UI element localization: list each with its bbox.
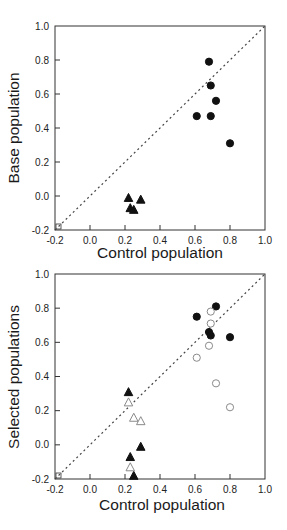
scatter-plot-bottom: -0.20.00.20.40.60.81.0 -0.20.00.20.40.60… [0,265,287,530]
open-triangle-marker [124,398,133,406]
y-tick-label: 0.8 [35,55,49,66]
open-triangle-marker [126,463,135,471]
open-circle-marker [207,320,214,327]
x-tick-label: 0.0 [83,484,97,495]
open-circle-marker [193,354,200,361]
x-axis-title: Control population [97,244,223,261]
corner-square-icon [56,473,61,478]
x-tick-label: 0.6 [188,484,202,495]
filled-circle-marker [207,82,214,89]
open-circle-marker [226,404,233,411]
x-tick-label: 0.8 [223,484,237,495]
open-circle-marker [205,342,212,349]
x-tick-label: -0.2 [46,484,64,495]
filled-circle-marker [207,113,214,120]
y-tick-label: 0.2 [35,157,49,168]
identity-reference-line [55,274,265,479]
scatter-plot-top: -0.20.00.20.40.60.81.0 -0.20.00.20.40.60… [0,0,287,265]
y-axis-title: Base population [5,72,22,183]
data-points [124,303,233,479]
corner-square-icon [56,224,61,229]
filled-circle-marker [193,313,200,320]
x-tick-label: 0.8 [223,235,237,246]
filled-circle-marker [205,58,212,65]
y-axis-title: Selected populations [5,305,22,449]
x-tick-label: 1.0 [258,235,272,246]
filled-triangle-marker [137,195,146,203]
x-axis-title: Control population [99,496,225,513]
y-tick-label: 0.2 [35,405,49,416]
y-tick-label: 1.0 [35,21,49,32]
y-tick-label: -0.2 [32,225,50,236]
filled-triangle-marker [126,453,135,461]
y-tick-label: 0.6 [35,89,49,100]
y-tick-label: 1.0 [35,269,49,280]
y-tick-label: 0.4 [35,123,49,134]
y-tick-label: 0.6 [35,337,49,348]
filled-triangle-marker [137,442,146,450]
x-tick-label: 0.4 [153,484,167,495]
chart-base-vs-control: -0.20.00.20.40.60.81.0 -0.20.00.20.40.60… [0,0,287,265]
filled-circle-marker [226,140,233,147]
x-tick-label: 1.0 [258,484,272,495]
y-ticks: -0.20.00.20.40.60.81.0 [32,21,60,236]
y-tick-label: 0.4 [35,371,49,382]
y-tick-label: 0.0 [35,191,49,202]
x-ticks: -0.20.00.20.40.60.81.0 [46,474,272,495]
identity-reference-line [55,26,265,230]
open-triangle-marker [130,413,139,421]
open-circle-marker [207,308,214,315]
filled-triangle-marker [124,193,133,201]
y-ticks: -0.20.00.20.40.60.81.0 [32,269,60,485]
filled-triangle-marker [130,471,139,479]
filled-circle-marker [212,97,219,104]
open-circle-marker [212,380,219,387]
y-tick-label: -0.2 [32,474,50,485]
filled-circle-marker [226,334,233,341]
x-tick-label: -0.2 [46,235,64,246]
filled-circle-marker [207,332,214,339]
x-tick-label: 0.0 [83,235,97,246]
filled-triangle-marker [124,388,133,396]
y-tick-label: 0.8 [35,303,49,314]
data-points [124,58,233,213]
filled-circle-marker [193,113,200,120]
x-tick-label: 0.2 [118,484,132,495]
chart-selected-vs-control: -0.20.00.20.40.60.81.0 -0.20.00.20.40.60… [0,265,287,530]
y-tick-label: 0.0 [35,439,49,450]
x-ticks: -0.20.00.20.40.60.81.0 [46,225,272,246]
